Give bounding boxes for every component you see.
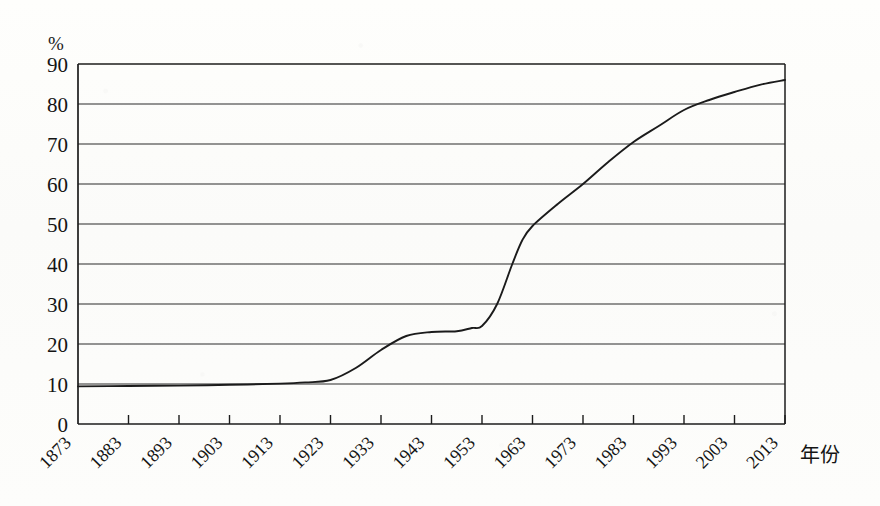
y-tick-label-30: 30: [47, 293, 68, 317]
x-tick-label-1923: 1923: [288, 433, 328, 473]
x-tick-label-1943: 1943: [389, 433, 429, 473]
y-axis-unit-label: %: [48, 33, 64, 54]
gridlines: [78, 104, 785, 384]
y-tick-label-80: 80: [47, 93, 68, 117]
x-tick-label-2003: 2003: [692, 433, 732, 473]
x-tick-label-1893: 1893: [136, 433, 176, 473]
x-tick-label-1913: 1913: [237, 433, 277, 473]
y-tick-label-50: 50: [47, 213, 68, 237]
y-tick-label-90: 90: [47, 53, 68, 77]
x-tick-label-2013: 2013: [742, 433, 782, 473]
y-tick-label-10: 10: [47, 373, 68, 397]
y-tick-label-60: 60: [47, 173, 68, 197]
x-tick-label-1933: 1933: [338, 433, 378, 473]
x-tick-label-1903: 1903: [187, 433, 227, 473]
y-tick-label-40: 40: [47, 253, 68, 277]
x-tick-label-1873: 1873: [35, 433, 75, 473]
y-tick-label-20: 20: [47, 333, 68, 357]
x-tick-label-1993: 1993: [641, 433, 681, 473]
x-tick-label-1963: 1963: [490, 433, 530, 473]
y-tick-label-0: 0: [58, 413, 69, 437]
chart-page: % 0102030405060708090 187318831893190319…: [0, 0, 880, 506]
x-tick-label-1983: 1983: [591, 433, 631, 473]
x-axis-title: 年份: [800, 443, 840, 467]
urbanization-rate-curve: [78, 80, 785, 386]
y-tick-label-70: 70: [47, 133, 68, 157]
x-axis-tick-labels: 1873188318931903191319231933194319531963…: [35, 433, 782, 473]
x-tick-label-1953: 1953: [439, 433, 479, 473]
x-axis-ticks: [129, 415, 786, 424]
line-chart: % 0102030405060708090 187318831893190319…: [0, 0, 880, 506]
y-axis-tick-labels: 0102030405060708090: [47, 53, 68, 437]
x-tick-label-1883: 1883: [86, 433, 126, 473]
x-tick-label-1973: 1973: [540, 433, 580, 473]
